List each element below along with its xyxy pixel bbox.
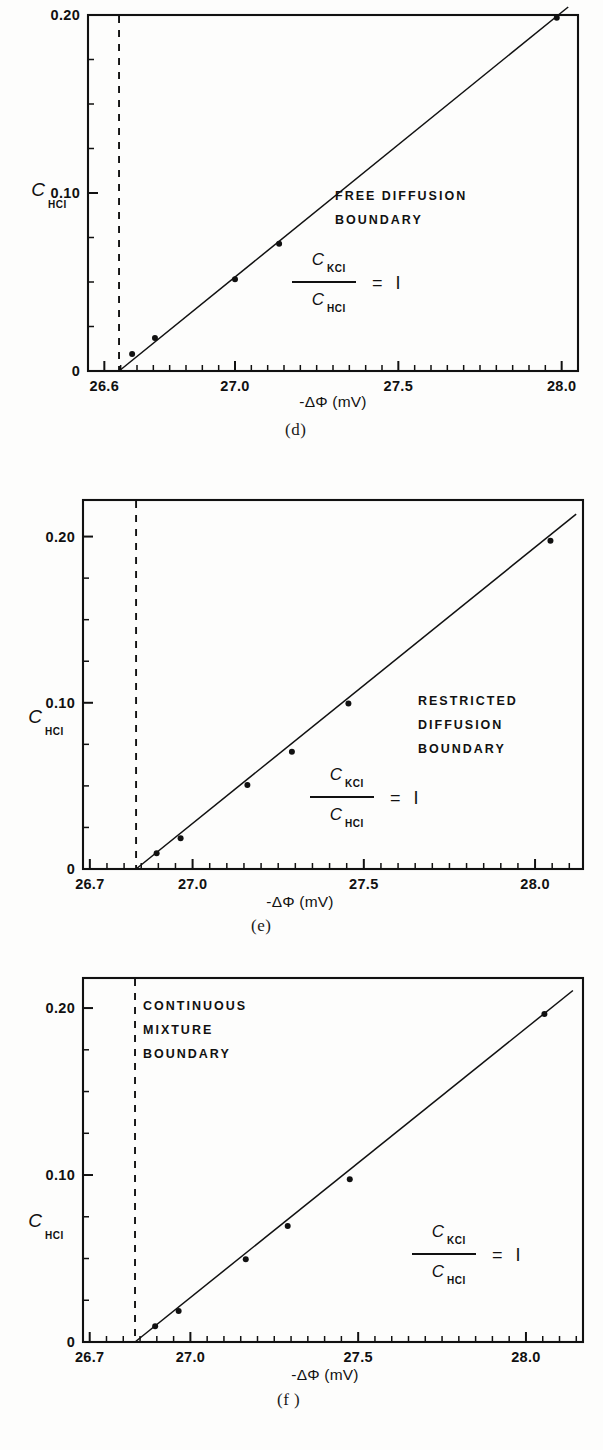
y-tick-label: 0 (72, 363, 80, 379)
data-point (541, 1011, 547, 1017)
x-tick-label: 28.0 (547, 378, 576, 394)
x-axis-title: -ΔΦ (mV) (266, 893, 333, 910)
ratio-numerator: C (312, 250, 325, 269)
panel-f-caption: (f ) (277, 1390, 300, 1410)
boundary-annotation: FREE DIFFUSIONBOUNDARY (335, 189, 467, 227)
x-axis-ticks (90, 1332, 577, 1342)
x-tick-label: 27.0 (220, 378, 249, 394)
x-axis-tick-labels: 26.627.027.528.0 (90, 378, 577, 394)
ratio-denominator: C (432, 1262, 445, 1281)
x-axis-ticks (90, 859, 569, 869)
fit-line (136, 514, 576, 869)
boundary-annotation-line: BOUNDARY (335, 213, 423, 227)
boundary-annotation-line: BOUNDARY (143, 1047, 231, 1061)
ratio-denominator-subscript: HCI (345, 818, 364, 829)
boundary-annotation: RESTRICTEDDIFFUSIONBOUNDARY (418, 694, 518, 756)
y-axis-title: CHCI (28, 1210, 64, 1241)
y-axis-title-main: C (31, 179, 45, 200)
x-tick-label: 26.7 (75, 876, 104, 892)
boundary-annotation-line: DIFFUSION (418, 718, 503, 732)
y-tick-label: 0.10 (46, 695, 75, 711)
y-axis-tick-labels: 00.100.20 (46, 1000, 75, 1350)
y-axis-title-subscript: HCI (48, 199, 67, 210)
boundary-annotation: CONTINUOUSMIXTUREBOUNDARY (143, 999, 247, 1061)
ratio-numerator: C (330, 765, 343, 784)
ratio-formula: CKCICHCI= I (292, 250, 405, 314)
y-axis-title-subscript: HCI (45, 1230, 64, 1241)
ratio-equals-one: = I (390, 788, 423, 808)
y-axis-title-main: C (28, 1210, 42, 1231)
panel-d-plot: 26.627.027.528.000.100.20CHCI-ΔΦ (mV)FRE… (0, 0, 603, 415)
data-point (285, 1223, 291, 1229)
x-tick-label: 27.5 (349, 876, 378, 892)
y-axis-tick-labels: 00.100.20 (46, 529, 75, 877)
ratio-numerator-subscript: KCI (327, 263, 346, 274)
ratio-denominator-subscript: HCI (327, 303, 346, 314)
x-axis-tick-labels: 26.727.027.528.0 (75, 876, 550, 892)
data-point (232, 276, 238, 282)
y-axis-ticks (83, 537, 93, 869)
panel-f: 26.727.027.528.000.100.20CHCI-ΔΦ (mV)CON… (0, 955, 603, 1395)
data-point (154, 850, 160, 856)
x-tick-label: 27.0 (176, 1349, 205, 1365)
x-tick-label: 27.5 (343, 1349, 372, 1365)
data-point (345, 701, 351, 707)
plot-frame (88, 15, 578, 371)
x-axis-ticks (88, 361, 578, 371)
y-axis-tick-labels: 00.100.20 (51, 7, 80, 379)
x-tick-label: 27.5 (384, 378, 413, 394)
panel-e-caption: (e) (251, 916, 271, 936)
ratio-denominator-subscript: HCI (447, 1275, 466, 1286)
y-axis-ticks (88, 15, 98, 371)
y-tick-label: 0.20 (51, 7, 80, 23)
x-axis-title: -ΔΦ (mV) (299, 393, 366, 410)
y-tick-label: 0.10 (46, 1167, 75, 1183)
data-point (289, 749, 295, 755)
y-tick-label: 0 (67, 861, 75, 877)
figure-page: 26.627.027.528.000.100.20CHCI-ΔΦ (mV)FRE… (0, 0, 603, 1450)
y-axis-title-subscript: HCI (45, 726, 64, 737)
panel-d-caption: (d) (285, 420, 306, 440)
boundary-annotation-line: MIXTURE (143, 1023, 213, 1037)
panel-f-plot: 26.727.027.528.000.100.20CHCI-ΔΦ (mV)CON… (0, 955, 603, 1395)
data-point (152, 335, 158, 341)
fit-line (135, 991, 573, 1342)
data-point (347, 1176, 353, 1182)
boundary-annotation-line: RESTRICTED (418, 694, 518, 708)
y-tick-label: 0 (67, 1334, 75, 1350)
data-point (176, 1308, 182, 1314)
boundary-annotation-line: CONTINUOUS (143, 999, 247, 1013)
data-point (243, 1256, 249, 1262)
x-tick-label: 28.0 (511, 1349, 540, 1365)
x-tick-label: 26.6 (90, 378, 119, 394)
data-point (244, 782, 250, 788)
y-axis-ticks (83, 1008, 93, 1342)
y-axis-title-main: C (28, 706, 42, 727)
ratio-numerator-subscript: KCI (345, 778, 364, 789)
y-tick-label: 0.20 (46, 1000, 75, 1016)
ratio-denominator: C (312, 290, 325, 309)
data-point (129, 351, 135, 357)
boundary-annotation-line: BOUNDARY (418, 742, 506, 756)
ratio-numerator-subscript: KCI (447, 1235, 466, 1246)
x-axis-title: -ΔΦ (mV) (291, 1366, 358, 1383)
x-tick-label: 27.0 (178, 876, 207, 892)
ratio-numerator: C (432, 1222, 445, 1241)
y-tick-label: 0.20 (46, 529, 75, 545)
panel-d: 26.627.027.528.000.100.20CHCI-ΔΦ (mV)FRE… (0, 0, 603, 415)
panel-e-plot: 26.727.027.528.000.100.20CHCI-ΔΦ (mV)RES… (0, 470, 603, 915)
ratio-denominator: C (330, 805, 343, 824)
panel-e: 26.727.027.528.000.100.20CHCI-ΔΦ (mV)RES… (0, 470, 603, 915)
ratio-formula: CKCICHCI= I (310, 765, 423, 829)
data-point (554, 15, 560, 21)
boundary-annotation-line: FREE DIFFUSION (335, 189, 467, 203)
data-point (152, 1323, 158, 1329)
x-tick-label: 28.0 (520, 876, 549, 892)
x-axis-tick-labels: 26.727.027.528.0 (75, 1349, 541, 1365)
data-point (276, 241, 282, 247)
ratio-equals-one: = I (492, 1245, 525, 1265)
x-tick-label: 26.7 (75, 1349, 104, 1365)
data-point (178, 835, 184, 841)
ratio-equals-one: = I (372, 273, 405, 293)
data-point (547, 538, 553, 544)
